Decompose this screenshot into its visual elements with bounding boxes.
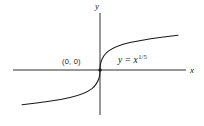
origin-label: (0, 0) bbox=[62, 57, 81, 66]
origin-point-marker bbox=[98, 68, 101, 71]
equation-equals-sign: = bbox=[125, 55, 130, 65]
equation-variable-y: y bbox=[117, 55, 123, 65]
graph-figure: y x (0, 0) y=x1/5 bbox=[0, 0, 204, 126]
svg-text:y=x1/5: y=x1/5 bbox=[117, 53, 147, 65]
equation-label: y=x1/5 bbox=[117, 53, 147, 65]
equation-exponent: 1/5 bbox=[138, 53, 147, 60]
y-axis-label: y bbox=[94, 1, 99, 11]
x-axis-label: x bbox=[189, 65, 194, 75]
plot-canvas: y x (0, 0) y=x1/5 bbox=[0, 0, 204, 126]
